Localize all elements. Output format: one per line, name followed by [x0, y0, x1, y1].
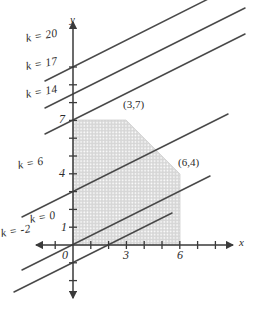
vertex-label-3-7: (3,7): [123, 99, 144, 110]
x-tick-label-3: 3: [123, 249, 129, 261]
y-tick-label-7: 7: [59, 113, 65, 125]
x-axis-label: x: [239, 237, 244, 248]
y-tick-label-1: 1: [61, 221, 67, 233]
feasible-region: [73, 120, 180, 245]
iso-line-k17: [45, 8, 245, 108]
linear-programming-figure: k = 20 k = 17 k = 14 k = 6 k = 0 k = -2 …: [0, 0, 253, 314]
y-axis-label: y: [70, 14, 75, 25]
vertex-label-6-4: (6,4): [178, 157, 199, 168]
iso-line-k14: [45, 34, 245, 134]
x-tick-label-6: 6: [177, 249, 183, 261]
y-tick-label-4: 4: [59, 167, 65, 179]
origin-label: 0: [62, 249, 68, 261]
